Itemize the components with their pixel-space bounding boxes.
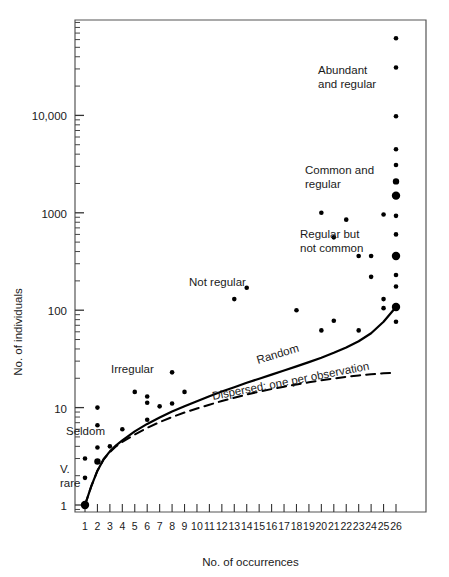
data-point [381, 297, 386, 302]
data-point [120, 427, 125, 432]
data-point [132, 390, 137, 395]
data-point [394, 284, 399, 289]
data-point [381, 212, 386, 217]
data-point [381, 306, 386, 311]
annotation-not-regular: Not regular [189, 276, 246, 288]
x-tick-label: 2 [95, 520, 101, 532]
x-tick-label: 10 [191, 520, 203, 532]
annotation-line: and regular [318, 78, 376, 90]
data-point [394, 232, 399, 237]
x-tick-label: 3 [107, 520, 113, 532]
chart-canvas: 110100100010,000 12345678910111213141516… [0, 0, 449, 577]
data-point [394, 163, 399, 168]
data-point [108, 444, 113, 449]
data-point [232, 297, 237, 302]
data-point [294, 308, 299, 313]
annotation-seldom: Seldom [66, 425, 105, 437]
data-point [81, 501, 89, 509]
annotation-line: Seldom [66, 425, 105, 437]
data-point [83, 456, 88, 461]
x-tick-label: 19 [303, 520, 315, 532]
data-point [356, 254, 361, 259]
y-tick-label: 1000 [41, 208, 67, 220]
data-point [394, 147, 399, 152]
x-tick-label: 24 [365, 520, 377, 532]
annotation-irregular: Irregular [111, 363, 154, 375]
data-point [94, 458, 100, 464]
data-point [356, 328, 361, 333]
x-tick-label: 22 [340, 520, 352, 532]
data-point [332, 318, 337, 323]
y-tick-label: 100 [48, 305, 67, 317]
y-tick-label: 10,000 [32, 110, 67, 122]
data-point [392, 303, 400, 311]
annotation-line: Irregular [111, 363, 154, 375]
annotation-line: regular [305, 178, 341, 190]
annotation-line: Abundant [318, 64, 368, 76]
x-tick-label: 25 [378, 520, 390, 532]
data-point [394, 214, 399, 219]
data-point [157, 404, 162, 409]
x-axis-title: No. of occurrences [202, 556, 299, 568]
data-point [392, 191, 400, 199]
data-point [145, 417, 150, 422]
x-tick-label: 17 [278, 520, 290, 532]
data-point [145, 394, 150, 399]
x-tick-label: 23 [353, 520, 365, 532]
annotation-line: Common and [305, 164, 374, 176]
data-point [394, 114, 399, 119]
x-tick-label: 5 [132, 520, 138, 532]
x-tick-label: 6 [144, 520, 150, 532]
annotation-line: Not regular [189, 276, 246, 288]
x-tick-label: 26 [390, 520, 402, 532]
x-tick-label: 13 [228, 520, 240, 532]
annotation-regular-but-not-common: Regular butnot common [300, 228, 363, 254]
x-tick-label: 7 [157, 520, 163, 532]
data-point [369, 254, 374, 259]
x-tick-label: 9 [182, 520, 188, 532]
x-tick-label: 12 [216, 520, 228, 532]
x-tick-label: 14 [241, 520, 253, 532]
data-point [369, 275, 374, 280]
chart-background [0, 0, 449, 577]
data-point [95, 405, 100, 410]
x-tick-label: 4 [119, 520, 125, 532]
data-point [392, 252, 400, 260]
x-tick-label: 15 [253, 520, 265, 532]
annotation-line: V. [60, 463, 70, 475]
x-tick-label: 1 [82, 520, 88, 532]
annotation-line: not common [300, 242, 363, 254]
data-point [170, 401, 175, 406]
annotation-line: Regular but [300, 228, 360, 240]
data-point [394, 273, 399, 278]
data-point [393, 178, 399, 184]
x-tick-label: 11 [204, 520, 215, 532]
y-tick-label: 1 [61, 500, 67, 512]
data-point [344, 217, 349, 222]
data-point [170, 370, 175, 375]
data-point [319, 211, 324, 216]
y-tick-label: 10 [54, 403, 67, 415]
data-point [394, 65, 399, 70]
annotation-line: rare [60, 477, 80, 489]
x-tick-label: 8 [169, 520, 175, 532]
data-point [83, 476, 88, 481]
x-tick-label: 18 [291, 520, 303, 532]
data-point [394, 320, 399, 325]
y-axis-title: No. of individuals [12, 288, 24, 376]
data-point [145, 401, 150, 406]
x-tick-label: 20 [316, 520, 328, 532]
data-point [95, 445, 100, 450]
x-tick-label: 16 [266, 520, 278, 532]
x-tick-label: 21 [328, 520, 340, 532]
chart-figure: 110100100010,000 12345678910111213141516… [0, 0, 449, 577]
data-point [182, 390, 187, 395]
data-point [319, 328, 324, 333]
data-point [394, 36, 399, 41]
